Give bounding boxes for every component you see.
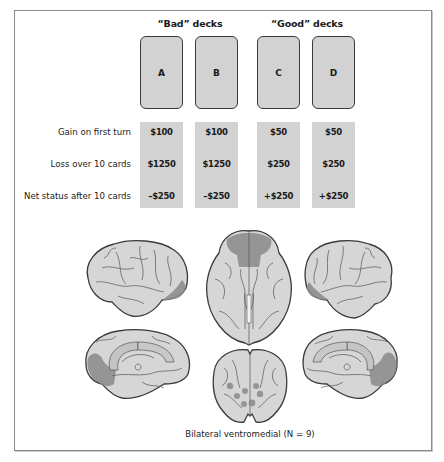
- gain-value: $50: [257, 127, 300, 137]
- row-label-net: Net status after 10 cards: [24, 191, 131, 201]
- net-value: +$250: [257, 191, 300, 201]
- net-value: –$250: [140, 191, 183, 201]
- deck-values-d: $50 $250 +$250: [312, 122, 355, 208]
- deck-label: A: [158, 68, 165, 78]
- loss-value: $1250: [195, 159, 238, 169]
- row-label-gain: Gain on first turn: [58, 127, 131, 137]
- deck-values-a: $100 $1250 –$250: [140, 122, 183, 208]
- bad-decks-title: “Bad” decks: [135, 18, 245, 29]
- brain-right-medial: [303, 328, 401, 402]
- deck-label: C: [275, 68, 282, 78]
- deck-label: B: [213, 68, 220, 78]
- brain-right-lateral: [303, 238, 397, 322]
- brain-left-medial: [82, 328, 192, 402]
- loss-value: $1250: [140, 159, 183, 169]
- gain-value: $100: [195, 127, 238, 137]
- brain-coronal: [210, 348, 290, 426]
- row-label-loss: Loss over 10 cards: [51, 159, 131, 169]
- gain-value: $100: [140, 127, 183, 137]
- deck-card-c: C: [257, 36, 300, 109]
- deck-card-a: A: [140, 36, 183, 109]
- deck-values-b: $100 $1250 –$250: [195, 122, 238, 208]
- loss-value: $250: [257, 159, 300, 169]
- net-value: –$250: [195, 191, 238, 201]
- gain-value: $50: [312, 127, 355, 137]
- loss-value: $250: [312, 159, 355, 169]
- figure-caption: Bilateral ventromedial (N = 9): [0, 429, 444, 439]
- net-value: +$250: [312, 191, 355, 201]
- brain-left-lateral: [82, 238, 190, 320]
- good-decks-title: “Good” decks: [252, 18, 362, 29]
- brain-ventral: [205, 229, 293, 346]
- deck-card-b: B: [195, 36, 238, 109]
- deck-label: D: [330, 68, 337, 78]
- deck-card-d: D: [312, 36, 355, 109]
- deck-values-c: $50 $250 +$250: [257, 122, 300, 208]
